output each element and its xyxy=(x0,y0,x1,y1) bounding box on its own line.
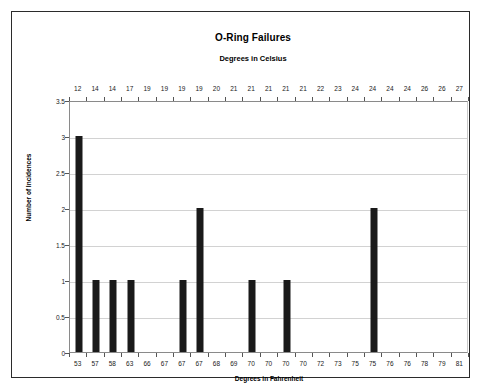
x-axis-tick xyxy=(242,353,243,357)
bar-series xyxy=(70,102,467,352)
bar-slot xyxy=(278,102,295,352)
bar-slot xyxy=(122,102,139,352)
bar[interactable] xyxy=(249,280,256,352)
x-axis-tick xyxy=(468,353,469,357)
x-axis-tick xyxy=(86,353,87,357)
y-axis-tick-label: 3.5 xyxy=(43,98,65,105)
bar-slot xyxy=(105,102,122,352)
bar[interactable] xyxy=(93,280,100,352)
bar-slot xyxy=(243,102,260,352)
bar-slot xyxy=(417,102,434,352)
chart-subtitle: Degrees in Celsius xyxy=(12,54,482,63)
y-axis-tick-labels: 00.511.522.533.5 xyxy=(38,101,65,354)
bar-slot xyxy=(209,102,226,352)
bar[interactable] xyxy=(197,208,204,352)
x-axis-tick xyxy=(347,353,348,357)
bar[interactable] xyxy=(75,136,82,352)
bar-slot xyxy=(400,102,417,352)
x-axis-tick xyxy=(104,353,105,357)
x-axis-tick-label: 81 xyxy=(449,360,469,367)
bar-slot xyxy=(191,102,208,352)
x-axis-tick xyxy=(156,353,157,357)
y-axis-title: Number of Incidences xyxy=(25,128,32,248)
top-axis-tick xyxy=(468,97,469,101)
y-axis-tick-label: 1 xyxy=(43,278,65,285)
bar-slot xyxy=(296,102,313,352)
x-axis-tick xyxy=(225,353,226,357)
plot-area xyxy=(69,101,468,353)
bar-slot xyxy=(348,102,365,352)
y-axis-tick-label: 2 xyxy=(43,206,65,213)
bar-slot xyxy=(139,102,156,352)
x-axis-tick xyxy=(173,353,174,357)
chart-title: O-Ring Failures xyxy=(12,32,482,43)
bar[interactable] xyxy=(110,280,117,352)
bar-slot xyxy=(452,102,469,352)
x-axis-tick xyxy=(451,353,452,357)
bar-slot xyxy=(70,102,87,352)
bar-slot xyxy=(261,102,278,352)
x-axis-tick xyxy=(277,353,278,357)
bar-slot xyxy=(382,102,399,352)
bar-slot xyxy=(434,102,451,352)
y-axis-tick-label: 2.5 xyxy=(43,170,65,177)
bar-slot xyxy=(365,102,382,352)
x-axis-tick xyxy=(416,353,417,357)
x-axis-tick xyxy=(312,353,313,357)
x-axis-tick xyxy=(295,353,296,357)
x-axis-tick xyxy=(381,353,382,357)
bar-slot xyxy=(226,102,243,352)
y-axis-tick-label: 0 xyxy=(43,350,65,357)
y-axis-tick-label: 0.5 xyxy=(43,314,65,321)
bar[interactable] xyxy=(179,280,186,352)
x-axis-tick-labels: 5357586366676767686970707070727375757676… xyxy=(69,360,469,372)
y-axis-tick-label: 1.5 xyxy=(43,242,65,249)
x-axis-tick xyxy=(208,353,209,357)
x-axis-tick xyxy=(138,353,139,357)
x-axis-tick xyxy=(190,353,191,357)
x-axis-tick xyxy=(364,353,365,357)
bar[interactable] xyxy=(370,208,377,352)
x-axis-tick xyxy=(121,353,122,357)
x-axis-tick xyxy=(329,353,330,357)
bar-slot xyxy=(330,102,347,352)
bar[interactable] xyxy=(127,280,134,352)
x-axis-title: Degrees in Fahrenheit xyxy=(69,375,469,382)
x-axis-tick xyxy=(69,353,70,357)
x-axis-tick xyxy=(399,353,400,357)
x-axis-tick xyxy=(433,353,434,357)
bar-slot xyxy=(157,102,174,352)
bar-slot xyxy=(313,102,330,352)
y-axis-tick-label: 3 xyxy=(43,134,65,141)
top-axis-tick-labels: 1214141719191919202121212121222324242424… xyxy=(69,85,469,97)
chart-page: O-Ring Failures Degrees in Celsius 12141… xyxy=(0,0,482,391)
bar-slot xyxy=(87,102,104,352)
x-axis-tick xyxy=(260,353,261,357)
x-axis-ticks xyxy=(69,353,469,358)
top-axis-tick-label: 27 xyxy=(449,85,469,92)
bar-slot xyxy=(174,102,191,352)
figure-frame: O-Ring Failures Degrees in Celsius 12141… xyxy=(11,11,470,378)
bar[interactable] xyxy=(283,280,290,352)
